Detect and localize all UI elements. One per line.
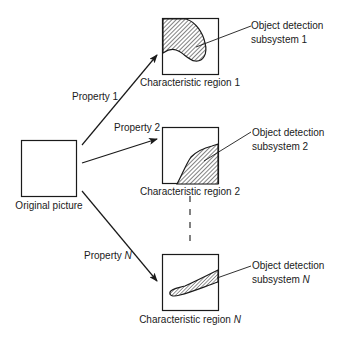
leader-line-1 (196, 26, 251, 47)
detected-object-n (170, 270, 218, 296)
subsystem-2-label: Object detection subsystem 2 (252, 127, 324, 152)
property-2-label: Property 2 (114, 122, 160, 133)
subsystem-n-label: Object detection subsystem N (252, 260, 324, 285)
subsystem-1-line2: subsystem 1 (251, 34, 323, 45)
subsystem-2-line1: Object detection (252, 127, 324, 138)
subsystem-n-line1: Object detection (252, 260, 324, 271)
original-picture-box (22, 141, 77, 197)
detected-object-2 (177, 144, 218, 184)
subsystem-n-var: N (303, 274, 310, 285)
subsystem-n-prefix: subsystem (252, 274, 303, 285)
property-n-prefix: Property (84, 250, 125, 261)
arrow-property-n (82, 191, 157, 281)
subsystem-n-line2: subsystem N (252, 274, 324, 285)
subsystem-1-line1: Object detection (251, 20, 323, 31)
detected-object-1 (163, 19, 206, 61)
characteristic-region-n (163, 255, 252, 311)
characteristic-region-2 (163, 128, 252, 185)
arrow-property-2 (82, 139, 157, 163)
characteristic-region-1 (163, 19, 252, 75)
region-2-label: Characteristic region 2 (140, 186, 240, 197)
region-n-label: Characteristic region N (139, 314, 241, 325)
original-picture-label: Original picture (15, 200, 82, 211)
diagram-canvas (0, 0, 337, 338)
property-1-label: Property 1 (72, 91, 118, 102)
subsystem-1-label: Object detection subsystem 1 (251, 20, 323, 45)
region-1-label: Characteristic region 1 (140, 77, 240, 88)
property-n-var: N (125, 250, 132, 261)
region-n-prefix: Characteristic region (139, 314, 233, 325)
property-n-label: Property N (84, 250, 132, 261)
leader-line-n (217, 266, 251, 278)
region-n-var: N (234, 314, 241, 325)
subsystem-2-line2: subsystem 2 (252, 141, 324, 152)
